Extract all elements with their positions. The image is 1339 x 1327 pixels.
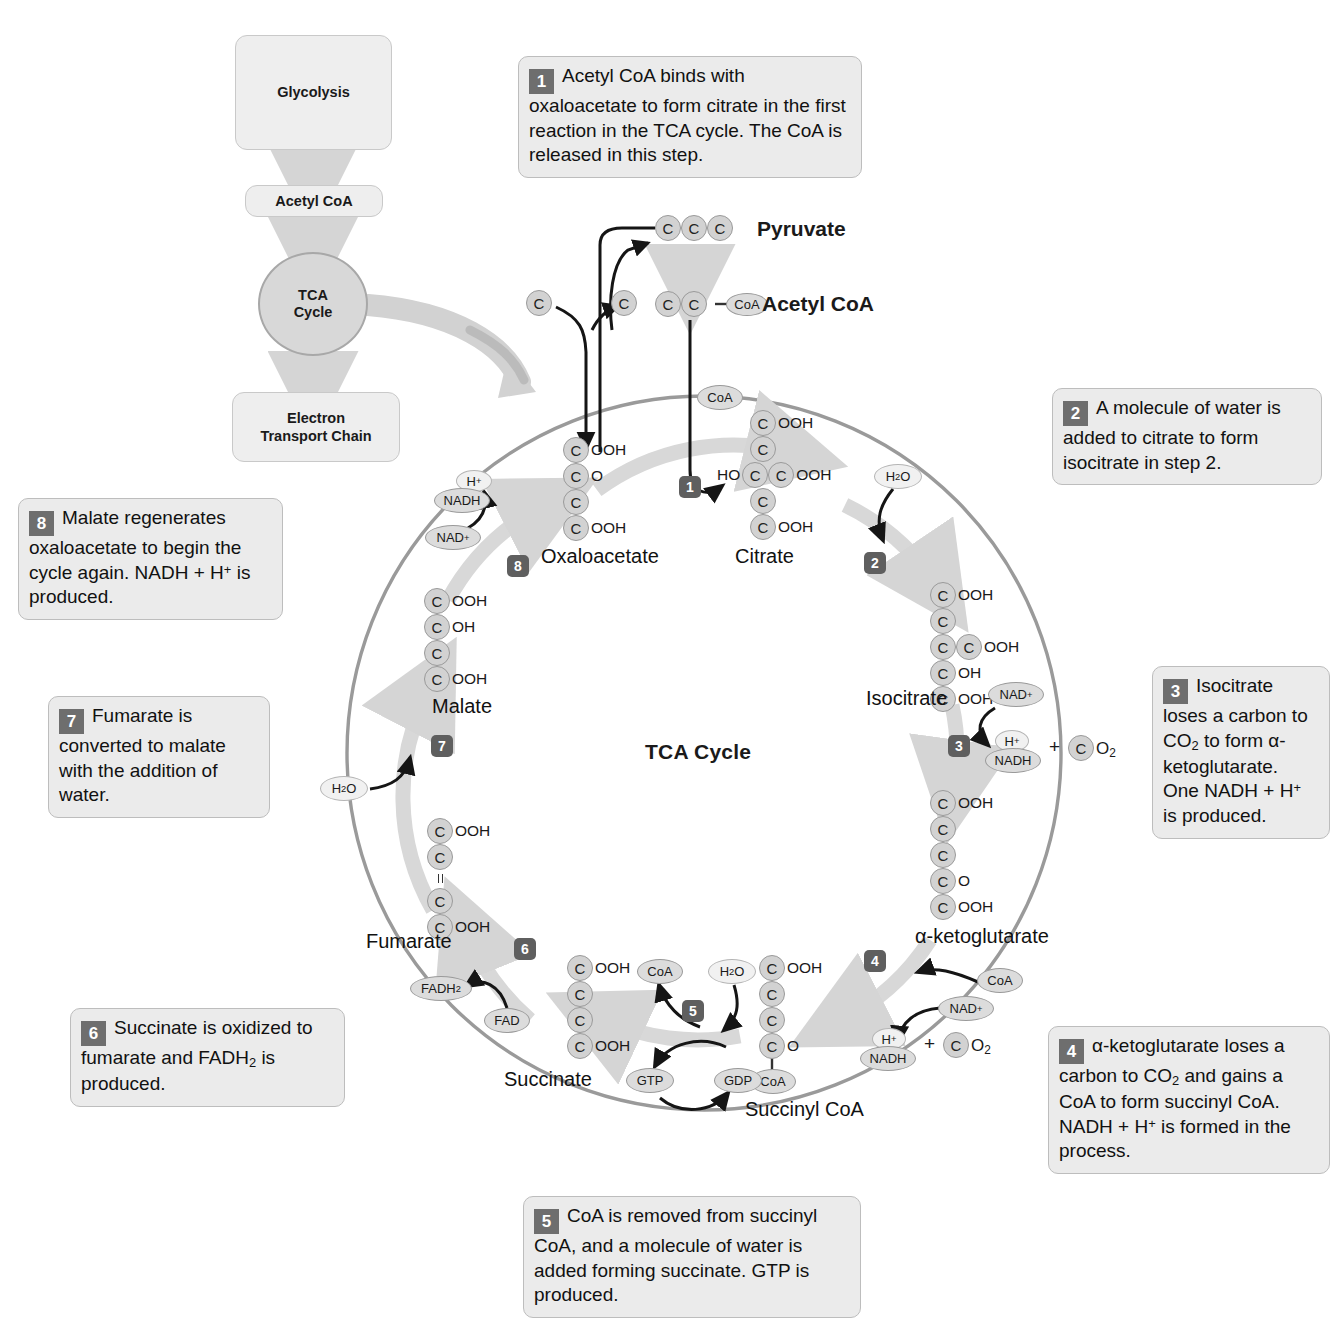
atom-row: CO <box>930 868 993 894</box>
molecule-fumarate: COOH C C COOH <box>427 818 490 940</box>
carbon-atom: C <box>750 436 776 462</box>
carbon-atom: C <box>930 842 956 868</box>
atom-row: COOH <box>759 955 822 981</box>
group-ooh: OOH <box>787 959 822 977</box>
carbon-atom: C <box>567 1007 593 1033</box>
carbon-atom: C <box>681 215 707 241</box>
callout-1-number: 1 <box>529 69 554 94</box>
cofactor-nadh-step4: NADH <box>860 1046 916 1071</box>
group-o: O <box>787 1037 799 1055</box>
atom-row: COOH <box>424 588 487 614</box>
flow-box-electron-transport-chain: Electron Transport Chain <box>232 392 400 462</box>
atom-row: C <box>759 981 822 1007</box>
acetyl-coa-row: C C CoA <box>655 291 768 317</box>
label-malate: Malate <box>432 695 492 718</box>
group-ooh: OOH <box>984 638 1019 656</box>
acetyl-coa-label: Acetyl CoA <box>275 192 352 210</box>
cofactor-nadh-step3: NADH <box>985 748 1041 773</box>
carbon-atom: C <box>759 981 785 1007</box>
callout-3-number: 3 <box>1163 679 1188 704</box>
cofactor-coa-step4: CoA <box>977 968 1023 993</box>
carbon-atom: C <box>427 818 453 844</box>
glycolysis-label: Glycolysis <box>277 83 350 101</box>
atom-row: CO <box>563 463 626 489</box>
label-succinyl-coa: Succinyl CoA <box>745 1098 864 1121</box>
cofactor-water-step7: H2O <box>320 776 368 801</box>
tca-line-2: Cycle <box>294 304 333 320</box>
group-ooh: OOH <box>452 670 487 688</box>
callout-7-text: Fumarate is converted to malate with the… <box>59 705 226 805</box>
label-oxaloacetate: Oxaloacetate <box>541 545 659 568</box>
callout-8-text: Malate regenerates oxaloacetate to begin… <box>29 507 250 607</box>
atom-row: C <box>930 608 1019 634</box>
callout-2: 2A molecule of water is added to citrate… <box>1052 388 1322 485</box>
molecule-oxaloacetate: COOH CO C COOH <box>563 437 626 541</box>
group-ooh: OOH <box>958 586 993 604</box>
group-ooh: OOH <box>796 466 831 484</box>
cofactor-water-step5: H2O <box>708 959 756 984</box>
carbon-atom: C <box>427 888 453 914</box>
carbon-atom: C <box>655 291 681 317</box>
etc-line-1: Electron <box>287 410 345 426</box>
group-ooh: OOH <box>958 898 993 916</box>
atom-row: C C OOH <box>930 634 1019 660</box>
group-ooh: OOH <box>595 959 630 977</box>
atom-row: COOH <box>930 582 1019 608</box>
atom-row: C <box>427 844 490 870</box>
carbon-atom-branch: C <box>956 634 982 660</box>
carbon-atom-co2-step4: C <box>943 1032 969 1058</box>
cofactor-fadh2: FADH2 <box>410 976 472 1001</box>
center-title: TCA Cycle <box>645 740 751 764</box>
callout-5: 5CoA is removed from succinyl CoA, and a… <box>523 1196 861 1318</box>
carbon-atom: C <box>750 488 776 514</box>
carbon-atom: C <box>930 582 956 608</box>
molecule-acetyl-coa: C C CoA <box>655 291 768 317</box>
carbon-atom: C <box>563 463 589 489</box>
carbon-atom: C <box>750 514 776 540</box>
callout-3: 3Isocitrate loses a carbon to CO2 to for… <box>1152 666 1330 839</box>
cofactor-fad: FAD <box>484 1008 530 1033</box>
carbon-atom: C <box>681 291 707 317</box>
group-ooh: OOH <box>778 414 813 432</box>
carbon-atom: C <box>930 868 956 894</box>
group-oh: OH <box>452 618 475 636</box>
carbon-atom-released: C <box>611 290 637 316</box>
callout-6: 6Succinate is oxidized to fumarate and F… <box>70 1008 345 1107</box>
flow-circle-tca-cycle: TCA Cycle <box>258 252 368 356</box>
molecule-alpha-ketoglutarate: COOH C C CO COOH <box>930 790 993 920</box>
carbon-atom: C <box>424 614 450 640</box>
carbon-atom: C <box>707 215 733 241</box>
carbon-atom: C <box>424 666 450 692</box>
group-ho: HO <box>717 466 740 484</box>
group-ooh: OOH <box>591 519 626 537</box>
atom-row: COH <box>424 614 487 640</box>
carbon-atom: C <box>930 660 956 686</box>
carbon-atom-input: C <box>526 290 552 316</box>
callout-7-number: 7 <box>59 709 84 734</box>
atom-row: C <box>567 1007 630 1033</box>
molecule-citrate: COOH C HO C C OOH C COOH <box>750 410 832 540</box>
atom-row: C <box>930 842 993 868</box>
co2-subscript-step4: O2 <box>971 1036 991 1057</box>
atom-row: COOH <box>750 410 832 436</box>
carbon-atom-co2-step3: C <box>1068 735 1094 761</box>
atom-row: C <box>750 436 832 462</box>
tca-line-1: TCA <box>298 287 328 303</box>
group-ooh: OOH <box>452 592 487 610</box>
group-ooh: OOH <box>958 794 993 812</box>
callout-4: 4α-ketoglutarate loses a carbon to CO2 a… <box>1048 1026 1330 1174</box>
callout-1-text: Acetyl CoA binds with oxaloacetate to fo… <box>529 65 846 165</box>
step-badge-6: 6 <box>514 938 536 960</box>
molecule-malate: COOH COH C COOH <box>424 588 487 692</box>
callout-1: 1Acetyl CoA binds with oxaloacetate to f… <box>518 56 862 178</box>
atom-row: C <box>750 488 832 514</box>
group-ooh: OOH <box>778 518 813 536</box>
molecule-succinyl-coa: COOH C C CO <box>759 955 822 1059</box>
atom-row <box>427 870 490 888</box>
flow-box-acetyl-coa: Acetyl CoA <box>245 185 383 217</box>
cofactor-nad-plus-step3: NAD+ <box>988 682 1044 707</box>
atom-row: C <box>427 888 490 914</box>
carbon-atom: C <box>563 437 589 463</box>
cofactor-nadh-step8: NADH <box>434 488 490 513</box>
step-badge-3: 3 <box>948 735 970 757</box>
